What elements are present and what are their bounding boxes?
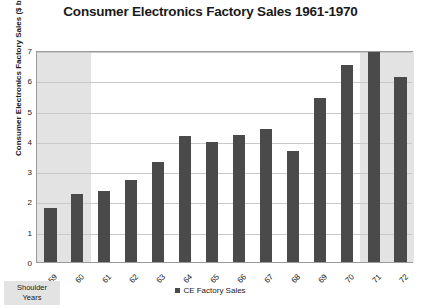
bar[interactable] <box>98 191 110 262</box>
bar[interactable] <box>394 77 406 262</box>
y-axis-tick-label: 7 <box>8 47 32 56</box>
y-axis-tick-label: 4 <box>8 137 32 146</box>
bar[interactable] <box>368 52 380 262</box>
y-axis-tick-label: 5 <box>8 107 32 116</box>
bar[interactable] <box>260 129 272 262</box>
bar[interactable] <box>179 136 191 262</box>
legend-marker-icon <box>175 288 180 293</box>
bar[interactable] <box>287 151 299 262</box>
chart-title: Consumer Electronics Factory Sales 1961-… <box>0 4 421 19</box>
y-axis-tick-label: 3 <box>8 168 32 177</box>
chart-legend: CE Factory Sales <box>0 286 421 295</box>
bar[interactable] <box>125 180 137 262</box>
y-axis-tick-label: 2 <box>8 198 32 207</box>
y-axis-tick-label: 6 <box>8 77 32 86</box>
bar[interactable] <box>71 194 83 262</box>
bar[interactable] <box>44 208 56 263</box>
y-axis-tick-label: 0 <box>8 259 32 268</box>
bar-series <box>37 52 412 262</box>
legend-label: CE Factory Sales <box>183 286 245 295</box>
chart-container: Consumer Electronics Factory Sales 1961-… <box>0 0 421 308</box>
bar[interactable] <box>206 142 218 262</box>
bar[interactable] <box>314 98 326 262</box>
plot-area <box>36 51 413 263</box>
y-axis-tick-label: 1 <box>8 228 32 237</box>
bar[interactable] <box>233 135 245 262</box>
bar[interactable] <box>341 65 353 262</box>
bar[interactable] <box>152 162 164 262</box>
